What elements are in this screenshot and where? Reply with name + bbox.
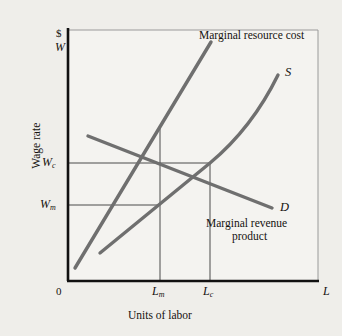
- x-tick-lm-subscript: m: [159, 290, 165, 299]
- label-marginal-revenue-product-line2: product: [232, 231, 267, 243]
- label-demand-curve: D: [280, 201, 289, 214]
- axis-origin-label: 0: [56, 286, 62, 297]
- x-tick-lc-subscript: c: [210, 290, 214, 299]
- plot-area: [68, 30, 318, 281]
- x-tick-label-lc: Lc: [203, 285, 213, 299]
- x-tick-label-lm: Lm: [152, 285, 164, 299]
- y-axis-top-variable: W: [55, 41, 65, 53]
- y-tick-wm-base: W: [40, 197, 50, 211]
- y-axis-currency-symbol: $: [56, 28, 62, 39]
- y-tick-wc-subscript: c: [52, 161, 56, 170]
- label-supply-curve: S: [285, 66, 291, 79]
- x-axis-end-label: L: [323, 285, 330, 297]
- y-axis-title: Wage rate: [31, 101, 43, 191]
- x-axis-title: Units of labor: [128, 310, 192, 322]
- y-tick-label-wm: Wm: [40, 198, 56, 212]
- label-marginal-resource-cost: Marginal resource cost: [199, 30, 304, 42]
- y-tick-label-wc: Wc: [42, 156, 56, 170]
- x-tick-lm-base: L: [152, 284, 159, 298]
- y-tick-wm-subscript: m: [50, 203, 56, 212]
- y-tick-wc-base: W: [42, 155, 52, 169]
- economics-figure: $ W 0 L Wc Wm Lm Lc Wage rate Units of l…: [0, 0, 342, 336]
- label-marginal-revenue-product-line1: Marginal revenue: [206, 218, 287, 230]
- x-tick-lc-base: L: [203, 284, 210, 298]
